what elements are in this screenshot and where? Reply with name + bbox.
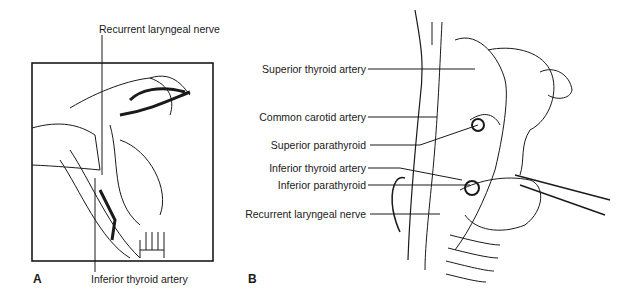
label-recurrent-laryngeal-nerve-a: Recurrent laryngeal nerve <box>99 23 220 35</box>
label-superior-thyroid-artery: Superior thyroid artery <box>262 63 366 75</box>
label-common-carotid-artery: Common carotid artery <box>259 111 366 123</box>
panel-letter-a: A <box>33 272 42 286</box>
label-superior-parathyroid: Superior parathyroid <box>271 139 366 151</box>
label-inferior-parathyroid: Inferior parathyroid <box>278 179 366 191</box>
label-inferior-thyroid-artery-b: Inferior thyroid artery <box>269 162 366 174</box>
label-recurrent-laryngeal-nerve-b: Recurrent laryngeal nerve <box>245 208 366 220</box>
panel-letter-b: B <box>248 272 257 286</box>
label-inferior-thyroid-artery-a: Inferior thyroid artery <box>91 273 188 285</box>
